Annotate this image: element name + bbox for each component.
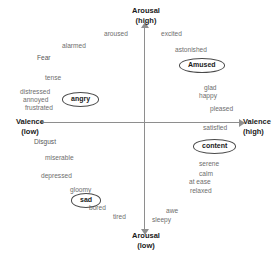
emotion-label-fear: Fear xyxy=(37,54,51,62)
emotion-label-depressed: depressed xyxy=(41,172,72,180)
valence-axis-line xyxy=(40,122,240,123)
axis-label-valence-low-name: Valence xyxy=(16,117,44,126)
emotion-circumplex-chart: Arousal (high) Arousal (low) Valence (lo… xyxy=(0,0,276,256)
highlighted-emotion-sad: sad xyxy=(71,193,101,208)
axis-label-arousal-low: Arousal (low) xyxy=(131,231,161,250)
axis-label-valence-high: Valence (high) xyxy=(243,117,276,136)
axis-label-valence-low-level: (low) xyxy=(13,127,47,137)
highlighted-emotion-angry: angry xyxy=(62,92,99,107)
axis-label-valence-low: Valence (low) xyxy=(13,117,47,136)
axis-label-arousal-high-name: Arousal xyxy=(132,6,160,15)
emotion-label-annoyed: annoyed xyxy=(23,96,48,104)
emotion-label-sleepy: sleepy xyxy=(152,216,171,224)
emotion-label-at-ease: at ease xyxy=(189,178,211,186)
emotion-label-disgust: Disgust xyxy=(34,138,56,146)
emotion-label-relaxed: relaxed xyxy=(190,187,212,195)
axis-label-arousal-high-level: (high) xyxy=(131,16,161,26)
axis-label-arousal-high: Arousal (high) xyxy=(131,6,161,25)
emotion-label-miserable: miserable xyxy=(45,154,74,162)
highlighted-emotion-content: content xyxy=(193,139,236,154)
axis-label-arousal-low-level: (low) xyxy=(131,241,161,251)
emotion-label-satisfied: satisfied xyxy=(203,124,227,132)
axis-label-valence-high-name: Valence xyxy=(243,117,271,126)
emotion-label-astonished: astonished xyxy=(175,46,207,54)
arousal-axis-line xyxy=(144,27,145,231)
emotion-label-awe: awe xyxy=(166,207,178,215)
emotion-label-serene: serene xyxy=(199,160,219,168)
emotion-label-tired: tired xyxy=(113,213,126,221)
emotion-label-alarmed: alarmed xyxy=(62,42,86,50)
emotion-label-excited: excited xyxy=(161,30,182,38)
emotion-label-pleased: pleased xyxy=(210,105,233,113)
highlighted-emotion-amused: Amused xyxy=(179,58,225,73)
emotion-label-calm: calm xyxy=(199,170,213,178)
emotion-label-distressed: distressed xyxy=(20,88,50,96)
emotion-label-glad: glad xyxy=(204,84,216,92)
axis-label-valence-high-level: (high) xyxy=(243,127,276,137)
emotion-label-happy: happy xyxy=(199,92,217,100)
emotion-label-tense: tense xyxy=(45,74,61,82)
emotion-label-frustrated: frustrated xyxy=(25,104,53,112)
emotion-label-aroused: aroused xyxy=(104,30,128,38)
axis-label-arousal-low-name: Arousal xyxy=(132,231,160,240)
